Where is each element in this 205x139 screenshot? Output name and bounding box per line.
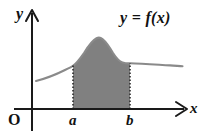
shaded-area-region	[73, 38, 130, 109]
y-axis-label: y	[16, 6, 23, 22]
origin-label: O	[8, 112, 20, 128]
figure-canvas	[0, 0, 205, 139]
lower-bound-label: a	[69, 113, 77, 128]
x-axis-label: x	[190, 101, 198, 116]
function-equation-label: y = f(x)	[120, 10, 171, 26]
figure-root: y x O a b y = f(x)	[0, 0, 205, 139]
upper-bound-label: b	[126, 113, 134, 128]
